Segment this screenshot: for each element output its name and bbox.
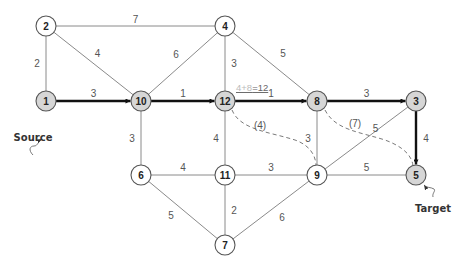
target-callout: Target [415, 185, 451, 214]
graph-node-4: 4 [215, 16, 235, 36]
edge-weight-label: 3 [268, 162, 274, 173]
edge-weight-label: 3 [305, 133, 311, 144]
edge-weight-label: 5 [168, 210, 174, 221]
edge-weight-label: 2 [231, 205, 237, 216]
edge-weight-label: 1 [180, 88, 186, 99]
graph-edge [54, 32, 133, 95]
edge-weight-label: 4 [213, 133, 219, 144]
edge-weight-label: 3 [129, 133, 135, 144]
graph-node-6: 6 [131, 165, 151, 185]
graph-edge [233, 181, 309, 239]
alternative-path-dashed-edge [232, 110, 316, 166]
graph-node-8: 8 [307, 91, 327, 111]
edge-weight-label: 1 [268, 88, 274, 99]
edge-weight-label: 5 [373, 123, 379, 134]
node-id-label: 2 [43, 21, 49, 32]
annotation-sum: 4+8=12 [236, 82, 268, 93]
graph-edge [325, 107, 408, 169]
node-id-label: 9 [314, 170, 320, 181]
edge-weight-label: 4 [180, 162, 186, 173]
graph-edge [149, 181, 218, 238]
edge-weight-label: 3 [364, 88, 370, 99]
node-id-label: 4 [222, 21, 228, 32]
dashed-edges-layer: (4)(7) [232, 110, 413, 166]
graph-node-9: 9 [307, 165, 327, 185]
node-id-label: 11 [220, 170, 231, 181]
node-id-label: 10 [135, 96, 147, 107]
graph-node-1: 1 [36, 91, 56, 111]
graph-node-7: 7 [215, 235, 235, 255]
edge-weight-label: 6 [173, 49, 179, 60]
node-id-label: 12 [219, 96, 231, 107]
node-id-label: 8 [314, 96, 320, 107]
edge-weight-label: 5 [280, 48, 286, 59]
edge-weights-layer: 274361335143345453256 [34, 14, 429, 223]
shortest-path-graph: (4)(7) 274361335143345453256 12345678910… [0, 0, 463, 263]
edge-weight-label: 6 [279, 212, 285, 223]
node-id-label: 5 [413, 170, 419, 181]
target-label: Target [415, 203, 451, 214]
source-label: Source [14, 132, 53, 143]
graph-edge [148, 33, 217, 95]
edge-weight-label: 4 [423, 133, 429, 144]
edge-weight-label: 2 [34, 58, 40, 69]
edge-weight-label: 5 [364, 162, 370, 173]
graph-node-3: 3 [406, 91, 426, 111]
edge-weight-label: 3 [231, 58, 237, 69]
node-id-label: 1 [43, 96, 49, 107]
graph-node-5: 5 [406, 165, 426, 185]
graph-node-12: 12 [215, 91, 235, 111]
alternative-path-cost-label: (7) [349, 118, 361, 129]
node-id-label: 6 [138, 170, 144, 181]
node-id-label: 3 [413, 96, 419, 107]
node-id-label: 7 [222, 240, 228, 251]
edge-weight-label: 7 [133, 14, 139, 25]
target-pointer-squiggle [424, 185, 435, 197]
edge-weight-label: 4 [95, 48, 101, 59]
edge-weight-label: 3 [91, 88, 97, 99]
alternative-path-dashed-edge [325, 110, 413, 166]
source-callout: Source [14, 132, 53, 156]
graph-node-2: 2 [36, 16, 56, 36]
alternative-path-cost-label: (4) [254, 120, 266, 131]
graph-node-11: 11 [215, 165, 235, 185]
graph-node-10: 10 [131, 91, 151, 111]
